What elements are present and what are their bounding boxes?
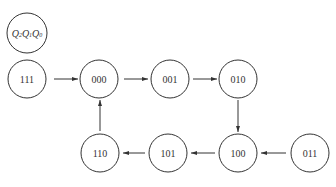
state-node-110: 110 <box>81 134 119 172</box>
state-node-010: 010 <box>219 60 257 98</box>
legend-node: Q2Q1Q0 <box>7 13 47 53</box>
svg-text:111: 111 <box>20 74 34 85</box>
state-node-011: 011 <box>291 134 329 172</box>
svg-text:101: 101 <box>161 148 176 159</box>
legend-label: Q2Q1Q0 <box>12 28 43 39</box>
state-node-100: 100 <box>219 134 257 172</box>
state-diagram: Q2Q1Q0 111 000 001 010 100 101 110 011 <box>0 0 336 187</box>
state-node-111: 111 <box>8 60 46 98</box>
svg-text:001: 001 <box>163 74 178 85</box>
svg-text:000: 000 <box>92 74 107 85</box>
state-node-000: 000 <box>80 60 118 98</box>
svg-text:011: 011 <box>303 148 318 159</box>
state-node-001: 001 <box>151 60 189 98</box>
svg-text:010: 010 <box>231 74 246 85</box>
state-node-101: 101 <box>149 134 187 172</box>
svg-text:100: 100 <box>231 148 246 159</box>
svg-text:110: 110 <box>93 148 108 159</box>
